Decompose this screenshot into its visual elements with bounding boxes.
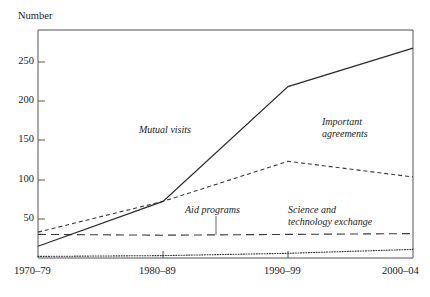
series-line-aid-programs [38,234,413,236]
series-label-important-agreements-line2: agreements [322,128,368,140]
series-label-important-agreements-line1: Important [322,116,368,128]
y-tick-label-100: 100 [6,173,34,184]
y-axis-ticks [38,62,45,219]
x-tick-label-2000-04: 2000–04 [382,265,419,276]
x-tick-label-1990-99: 1990–99 [264,265,301,276]
x-tick-label-1980-89: 1980–89 [139,265,176,276]
x-tick-label-1970-79: 1970–79 [14,265,51,276]
y-tick-label-50: 50 [6,212,34,223]
series-label-science-technology-exchange: Science and technology exchange [288,204,372,227]
line-chart: Number 250 200 150 100 50 1970–79 1980–8… [0,0,430,297]
y-axis-title: Number [18,10,52,21]
series-label-aid-programs: Aid programs [185,204,240,216]
y-tick-label-150: 150 [6,133,34,144]
series-line-science-technology-exchange [38,249,413,256]
series-label-science-technology-line2: technology exchange [288,216,372,228]
series-label-science-technology-line1: Science and [288,204,372,216]
y-tick-label-250: 250 [6,55,34,66]
series-label-mutual-visits: Mutual visits [139,124,191,136]
y-tick-label-200: 200 [6,94,34,105]
chart-plot-area [0,0,430,297]
series-label-important-agreements: Important agreements [322,116,368,139]
